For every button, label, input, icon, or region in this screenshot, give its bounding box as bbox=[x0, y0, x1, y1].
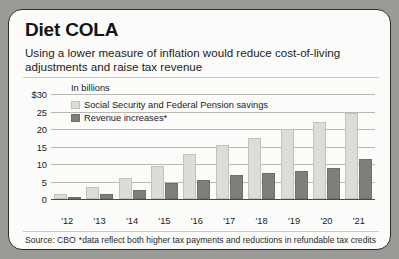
y-tick-label-15: 15 bbox=[19, 143, 47, 153]
gridline-0: 0 bbox=[51, 199, 375, 200]
legend-label-savings: Social Security and Federal Pension savi… bbox=[84, 100, 268, 110]
bar-savings-2018[interactable] bbox=[248, 138, 261, 199]
x-tick-label-2018: '18 bbox=[245, 215, 277, 227]
chart-subtitle: Using a lower measure of inflation would… bbox=[25, 46, 373, 73]
legend-label-revenue: Revenue increases* bbox=[84, 113, 167, 123]
source-label: Source: CBO bbox=[25, 235, 76, 245]
chart-card: Diet COLA Using a lower measure of infla… bbox=[8, 9, 391, 250]
x-tick-label-2021: '21 bbox=[343, 215, 375, 227]
chart-legend: Social Security and Federal Pension savi… bbox=[71, 99, 268, 125]
y-tick-label-5: 5 bbox=[19, 178, 47, 188]
bar-savings-2013[interactable] bbox=[86, 187, 99, 199]
bar-revenue-2016[interactable] bbox=[197, 180, 210, 199]
bar-revenue-2014[interactable] bbox=[133, 190, 146, 199]
x-tick-label-2014: '14 bbox=[116, 215, 148, 227]
legend-swatch-revenue-icon bbox=[71, 114, 80, 122]
bar-group-2019 bbox=[278, 94, 310, 199]
legend-item-savings[interactable]: Social Security and Federal Pension savi… bbox=[71, 99, 268, 111]
header-divider bbox=[23, 77, 379, 78]
bar-revenue-2015[interactable] bbox=[165, 183, 178, 199]
bar-savings-2021[interactable] bbox=[345, 113, 358, 199]
x-tick-label-2019: '19 bbox=[278, 215, 310, 227]
bar-revenue-2021[interactable] bbox=[359, 159, 372, 199]
bar-revenue-2019[interactable] bbox=[295, 171, 308, 199]
bar-revenue-2020[interactable] bbox=[327, 168, 340, 200]
bar-savings-2015[interactable] bbox=[151, 166, 164, 199]
bar-revenue-2018[interactable] bbox=[262, 173, 275, 199]
y-tick-label-0: 0 bbox=[19, 195, 47, 205]
x-tick-label-2015: '15 bbox=[148, 215, 180, 227]
page-title: Diet COLA bbox=[25, 19, 118, 41]
x-tick-label-2016: '16 bbox=[181, 215, 213, 227]
y-tick-label-20: 20 bbox=[19, 125, 47, 135]
bar-revenue-2017[interactable] bbox=[230, 175, 243, 200]
bar-savings-2020[interactable] bbox=[313, 122, 326, 199]
bar-savings-2017[interactable] bbox=[216, 145, 229, 199]
bar-savings-2016[interactable] bbox=[183, 154, 196, 200]
footer-divider bbox=[23, 231, 379, 232]
legend-swatch-savings-icon bbox=[71, 101, 80, 109]
y-tick-label-10: 10 bbox=[19, 160, 47, 170]
x-tick-label-2013: '13 bbox=[83, 215, 115, 227]
bar-revenue-2012[interactable] bbox=[68, 197, 81, 199]
bar-savings-2019[interactable] bbox=[281, 129, 294, 199]
y-tick-label-30: $30 bbox=[19, 90, 47, 100]
bar-group-2021 bbox=[343, 94, 375, 199]
x-tick-label-2020: '20 bbox=[310, 215, 342, 227]
bar-group-2020 bbox=[310, 94, 342, 199]
bar-savings-2012[interactable] bbox=[54, 194, 67, 199]
x-tick-label-2012: '12 bbox=[51, 215, 83, 227]
legend-item-revenue[interactable]: Revenue increases* bbox=[71, 112, 268, 124]
footnote-label: *data reflect both higher tax payments a… bbox=[79, 235, 376, 245]
y-tick-label-25: 25 bbox=[19, 108, 47, 118]
x-axis-labels: '12 '13 '14 '15 '16 '17 '18 '19 '20 '21 bbox=[51, 215, 375, 227]
units-note: In billions bbox=[71, 83, 110, 93]
x-tick-label-2017: '17 bbox=[213, 215, 245, 227]
bar-revenue-2013[interactable] bbox=[100, 194, 113, 199]
bar-savings-2014[interactable] bbox=[119, 178, 132, 199]
